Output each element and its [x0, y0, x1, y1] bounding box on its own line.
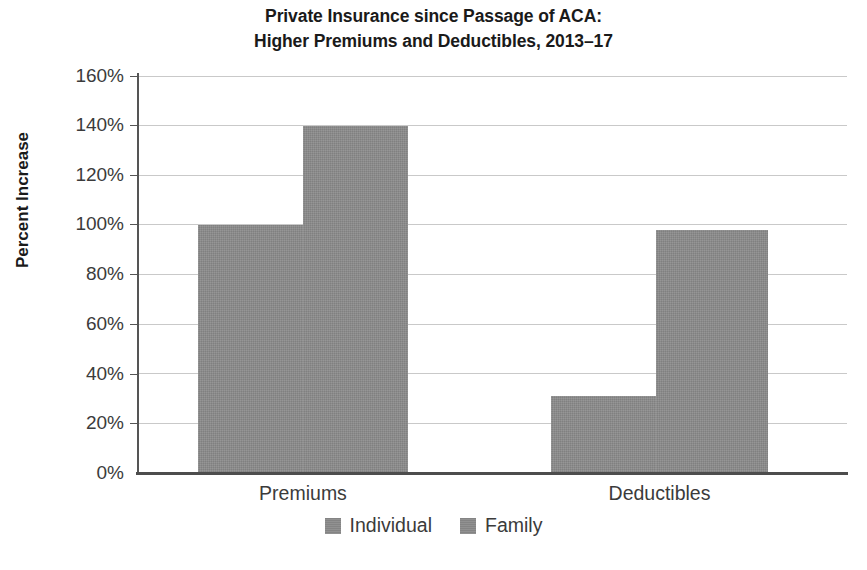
bar-deductibles-family	[656, 230, 768, 473]
y-tick-label-100: 100%	[4, 213, 124, 235]
bar-chart-figure: Private Insurance since Passage of ACA: …	[0, 0, 867, 570]
x-category-label-premiums: Premiums	[198, 482, 408, 505]
legend-swatch-individual-icon	[325, 518, 341, 534]
bar-premiums-family	[303, 126, 408, 473]
gridline-120	[138, 175, 847, 176]
legend-item-family: Family	[460, 516, 542, 536]
chart-title: Private Insurance since Passage of ACA: …	[0, 4, 867, 54]
x-axis-line	[136, 472, 848, 475]
y-tick-label-40: 40%	[4, 363, 124, 385]
chart-title-line-2: Higher Premiums and Deductibles, 2013–17	[0, 29, 867, 54]
plot-area	[138, 76, 847, 473]
chart-title-line-1: Private Insurance since Passage of ACA:	[0, 4, 867, 29]
chart-legend: Individual Family	[0, 516, 867, 536]
x-category-label-deductibles: Deductibles	[551, 482, 768, 505]
gridline-160	[138, 76, 847, 77]
y-tick-label-0: 0%	[4, 462, 124, 484]
y-tick-label-120: 120%	[4, 164, 124, 186]
legend-label-family: Family	[485, 516, 542, 536]
y-tick-label-140: 140%	[4, 114, 124, 136]
y-axis-line	[137, 73, 139, 475]
caption-sliver	[52, 563, 842, 570]
legend-label-individual: Individual	[350, 516, 432, 536]
y-axis-tick-labels: 160% 140% 120% 100% 80% 60% 40% 20% 0%	[0, 0, 124, 570]
legend-swatch-family-icon	[460, 518, 476, 534]
y-tick-label-20: 20%	[4, 412, 124, 434]
y-tick-label-160: 160%	[4, 65, 124, 87]
y-tick-label-80: 80%	[4, 263, 124, 285]
legend-item-individual: Individual	[325, 516, 432, 536]
bar-premiums-individual	[198, 225, 303, 473]
y-tick-label-60: 60%	[4, 313, 124, 335]
bar-deductibles-individual	[551, 396, 656, 473]
gridline-140	[138, 125, 847, 126]
